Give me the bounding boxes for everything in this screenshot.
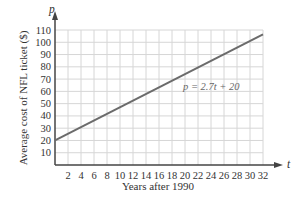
x-tick-label: 24 [206, 170, 217, 181]
x-tick-label: 22 [193, 170, 204, 181]
y-tick-label: 110 [36, 25, 51, 36]
y-tick-labels: 102030405060708090100110 [35, 25, 51, 159]
x-tick-label: 32 [258, 170, 269, 181]
x-axis-title: Years after 1990 [122, 180, 195, 192]
x-tick-label: 6 [91, 170, 96, 181]
x-axis-arrow-icon [274, 162, 283, 168]
x-tick-label: 8 [104, 170, 109, 181]
y-axis-title: Average cost of NFL ticket ($) [17, 30, 30, 165]
y-tick-label: 60 [41, 86, 52, 97]
x-tick-label: 26 [219, 170, 230, 181]
y-axis-variable: p [48, 3, 55, 16]
y-tick-label: 20 [41, 135, 52, 146]
y-tick-label: 100 [35, 37, 51, 48]
line-chart: 102030405060708090100110 246810121416182… [0, 0, 298, 203]
equation-annotation: p = 2.7t + 20 [182, 81, 240, 92]
y-tick-label: 80 [41, 61, 52, 72]
x-axis-variable: t [287, 158, 291, 170]
x-tick-label: 28 [232, 170, 243, 181]
y-tick-label: 70 [41, 74, 52, 85]
x-tick-label: 30 [245, 170, 256, 181]
y-tick-label: 40 [41, 110, 52, 121]
y-tick-label: 10 [41, 147, 52, 158]
x-tick-label: 2 [65, 170, 70, 181]
y-tick-label: 90 [41, 49, 52, 60]
x-tick-label: 4 [78, 170, 84, 181]
y-tick-label: 30 [41, 123, 52, 134]
y-tick-label: 50 [41, 98, 52, 109]
